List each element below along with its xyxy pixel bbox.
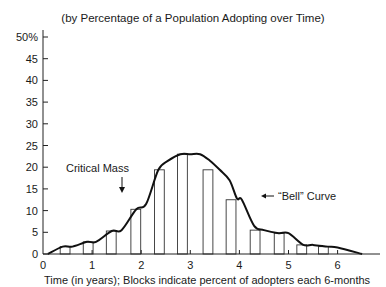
critical-mass-label: Critical Mass: [66, 162, 129, 174]
x-tick-label: 2: [138, 259, 144, 271]
x-tick-label: 1: [89, 259, 95, 271]
annotations: Critical Mass“Bell” Curve: [66, 162, 336, 202]
y-tick-label: 45: [26, 53, 38, 65]
y-tick-label: 35: [26, 96, 38, 108]
y-tick-label: 40: [26, 74, 38, 86]
bar: [274, 233, 284, 254]
bell-curve-label: “Bell” Curve: [278, 190, 336, 202]
y-tick-label: 15: [26, 183, 38, 195]
bar: [154, 170, 164, 254]
y-tick-label: 0: [32, 248, 38, 260]
x-tick-label: 5: [285, 259, 291, 271]
y-tick-label: 50%: [16, 31, 38, 43]
bar: [226, 200, 236, 254]
x-tick-label: 0: [40, 259, 46, 271]
x-tick-label: 4: [236, 259, 242, 271]
arrow-down-icon: [119, 187, 125, 193]
x-tick-label: 6: [335, 259, 341, 271]
y-tick-label: 20: [26, 161, 38, 173]
chart-canvas: 05101520253035404550%0123456Time (in yea…: [0, 0, 386, 287]
bar: [203, 170, 213, 254]
y-tick-label: 10: [26, 205, 38, 217]
bar: [178, 154, 188, 254]
bar: [250, 230, 260, 254]
x-tick-label: 3: [187, 259, 193, 271]
y-tick-label: 25: [26, 140, 38, 152]
bar: [318, 247, 328, 254]
x-axis-label: Time (in years); Blocks indicate percent…: [44, 274, 371, 286]
arrow-left-icon: [261, 194, 266, 199]
y-tick-label: 30: [26, 118, 38, 130]
y-tick-label: 5: [32, 226, 38, 238]
